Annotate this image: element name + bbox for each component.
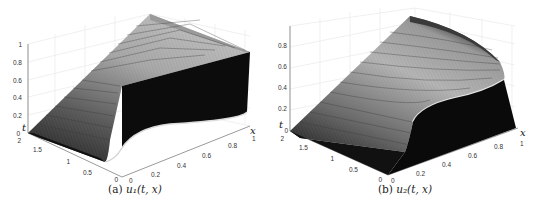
svg-text:0.8: 0.8	[228, 142, 237, 149]
svg-text:1: 1	[520, 140, 524, 147]
svg-text:0.6: 0.6	[468, 152, 477, 159]
caption-b: (b) u₂(t, x)	[270, 183, 540, 195]
surface-plot-u2: 0 0.2 0.4 0.6 0.8 2 1.5 1 0.5 0 0 0.2 0.…	[270, 0, 540, 185]
svg-text:1: 1	[330, 155, 334, 162]
svg-text:1: 1	[252, 135, 256, 142]
svg-text:0.2: 0.2	[151, 171, 160, 178]
svg-text:0.8: 0.8	[278, 42, 287, 49]
t-axis-label: t	[22, 122, 27, 133]
svg-text:0.4: 0.4	[442, 161, 451, 168]
svg-text:0.2: 0.2	[13, 112, 22, 119]
svg-text:0.5: 0.5	[349, 166, 358, 173]
surface-u1	[28, 14, 250, 162]
surface-plot-u1: 0 0.2 0.4 0.6 0.8 1 2 1.5 1 0.5 0 0 0.2 …	[0, 0, 270, 185]
svg-text:0: 0	[284, 127, 288, 134]
svg-text:0.8: 0.8	[494, 143, 503, 150]
svg-text:0.2: 0.2	[416, 170, 425, 177]
svg-text:0.4: 0.4	[177, 162, 186, 169]
x-axis-label: x	[520, 127, 526, 138]
svg-text:1.5: 1.5	[33, 146, 42, 153]
x-axis	[122, 126, 250, 177]
svg-text:0.5: 0.5	[83, 169, 92, 176]
svg-text:2: 2	[17, 137, 21, 144]
panel-u1: 0 0.2 0.4 0.6 0.8 1 2 1.5 1 0.5 0 0 0.2 …	[0, 0, 270, 210]
svg-text:0.2: 0.2	[278, 105, 287, 112]
x-ticks: 0 0.2 0.4 0.6 0.8 1	[129, 135, 256, 184]
svg-text:0.6: 0.6	[13, 77, 22, 84]
t-axis-label: t	[279, 119, 284, 130]
svg-text:1: 1	[18, 41, 22, 48]
svg-text:2: 2	[280, 135, 284, 142]
svg-text:1: 1	[66, 158, 70, 165]
z-ticks: 0 0.2 0.4 0.6 0.8 1	[13, 41, 22, 137]
svg-text:1.5: 1.5	[299, 144, 308, 151]
svg-text:0.8: 0.8	[13, 59, 22, 66]
svg-text:0.4: 0.4	[13, 94, 22, 101]
svg-text:0: 0	[16, 130, 20, 137]
panel-u2: 0 0.2 0.4 0.6 0.8 2 1.5 1 0.5 0 0 0.2 0.…	[270, 0, 540, 210]
caption-a: (a) u₁(t, x)	[0, 183, 270, 195]
svg-text:0.6: 0.6	[278, 63, 287, 70]
x-axis-label: x	[250, 125, 256, 136]
svg-text:0: 0	[378, 176, 382, 183]
svg-text:0.6: 0.6	[202, 152, 211, 159]
svg-text:0: 0	[114, 176, 118, 183]
svg-text:0.4: 0.4	[278, 84, 287, 91]
